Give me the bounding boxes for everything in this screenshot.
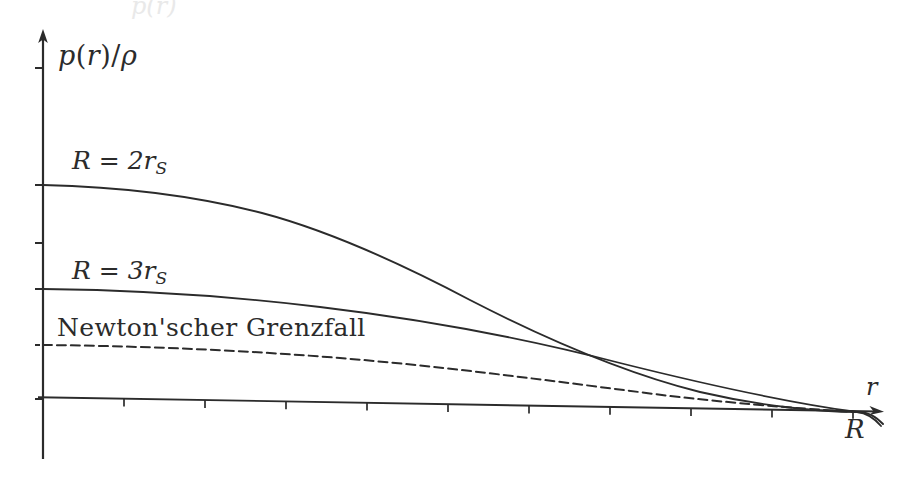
figure-canvas: p(r) (0, 0, 921, 479)
curve-label-2rs-equals: = (99, 146, 120, 175)
curve-label-3rs: R = 3rS (72, 256, 167, 288)
y-axis-label-r: r (87, 40, 100, 71)
curve-label-3rs-subscript: S (156, 268, 168, 288)
curve-label-2rs-subscript: S (156, 158, 168, 178)
plot-graphic (0, 0, 921, 479)
y-axis-label-rho: ρ (121, 40, 137, 71)
curve-label-2rs-value: 2r (128, 146, 156, 175)
y-axis-label-open-paren: ( (76, 40, 87, 71)
curve-label-3rs-value: 3r (128, 256, 156, 285)
curve-label-newton-limit: Newton'scher Grenzfall (57, 313, 366, 342)
y-axis-label-slash: / (111, 40, 121, 71)
y-axis-group (35, 29, 48, 459)
curve-newton-limit (43, 345, 857, 412)
curve-label-3rs-prefix: R (72, 256, 91, 285)
boundary-radius-label-R: R (845, 414, 865, 444)
curve-R-equals-2rs (43, 185, 883, 424)
curves-group (43, 185, 883, 426)
y-axis-label-close-paren: ) (100, 40, 111, 71)
x-axis-line (38, 397, 878, 411)
y-axis-label-p: p (58, 40, 76, 71)
x-axis-label-r: r (866, 373, 877, 401)
curve-label-2rs: R = 2rS (72, 146, 167, 178)
x-axis-group (38, 397, 884, 419)
y-axis-label: p(r)/ρ (58, 40, 137, 71)
curve-label-3rs-equals: = (99, 256, 120, 285)
curve-label-2rs-prefix: R (72, 146, 91, 175)
